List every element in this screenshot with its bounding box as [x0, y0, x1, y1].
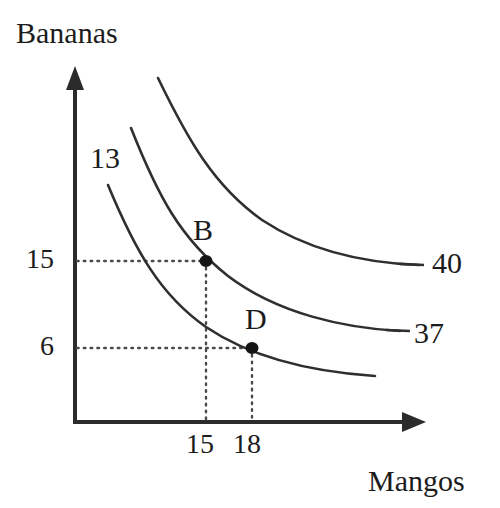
- curve-label-37: 37: [414, 318, 444, 348]
- y-axis-arrowhead: [66, 66, 84, 90]
- y-axis-title: Bananas: [16, 18, 118, 48]
- x-tick-label-18: 18: [233, 430, 261, 458]
- y-tick-label-15: 15: [26, 245, 54, 273]
- leader-line-37: [386, 330, 410, 331]
- point-label-B: B: [193, 215, 213, 245]
- point-label-D: D: [245, 304, 267, 334]
- x-tick-label-15: 15: [186, 430, 214, 458]
- y-tick-label-6: 6: [40, 332, 54, 360]
- curve-label-13: 13: [90, 143, 120, 173]
- point-marker-D: [246, 342, 259, 354]
- x-axis-title: Mangos: [368, 466, 465, 496]
- indifference-curve-13: [108, 185, 375, 376]
- point-marker-B: [200, 255, 213, 267]
- leader-line-40: [400, 264, 424, 265]
- indifference-curve-37: [131, 128, 400, 331]
- x-axis-arrowhead: [402, 412, 426, 432]
- curve-label-40: 40: [432, 248, 462, 278]
- indifference-curve-figure: Bananas Mangos 15 6 15 18 13 37 40 B D: [0, 0, 500, 508]
